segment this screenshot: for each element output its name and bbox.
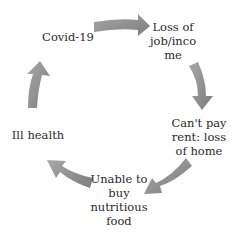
cycle-diagram: Covid-19 Loss of job/inco me Can't pay r… (0, 0, 232, 232)
arrow-rent-to-food-icon (144, 158, 192, 194)
node-cant-pay-rent: Can't pay rent: loss of home (170, 116, 228, 158)
arrow-covid-to-job-icon (94, 14, 150, 36)
arrow-job-to-rent-icon (189, 62, 213, 110)
arrow-health-to-covid-icon (27, 61, 50, 108)
node-ill-health: Ill health (10, 128, 66, 142)
arrow-food-to-health-icon (47, 160, 93, 188)
node-covid-19: Covid-19 (36, 30, 100, 44)
node-unable-to-buy-food: Unable to buy nutritious food (88, 172, 150, 228)
node-loss-of-job: Loss of job/inco me (148, 20, 198, 62)
